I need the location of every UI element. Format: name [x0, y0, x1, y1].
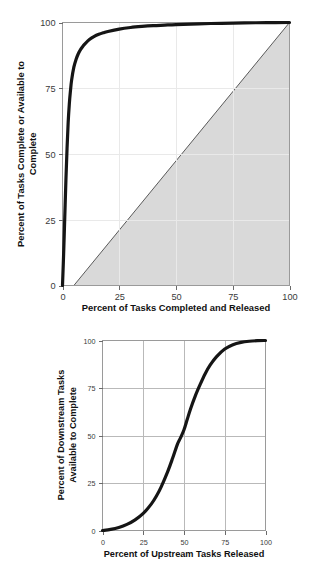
y-tick-label: 100 [40, 18, 55, 28]
x-tick-label: 100 [282, 292, 297, 302]
x-tick-label: 50 [171, 292, 181, 302]
y-tick-label: 50 [88, 432, 96, 441]
x-axis-title: Percent of Tasks Completed and Released [82, 302, 271, 313]
y-tick-label: 75 [88, 384, 96, 393]
x-tick-label: 25 [140, 538, 148, 547]
x-tick-label: 100 [260, 538, 272, 547]
y-axis-title-line1: Percent of Downstream Tasks [56, 370, 66, 501]
x-tick-label: 25 [115, 292, 125, 302]
y-tick-label: 25 [45, 216, 55, 226]
gridlines [103, 341, 266, 531]
x-tick-label: 0 [60, 292, 65, 302]
top-chart: 02550751000255075100 Percent of Tasks Co… [0, 0, 313, 320]
x-tick-label: 75 [228, 292, 238, 302]
y-axis-title-line2: Available to Complete [68, 387, 78, 483]
x-tick-label: 0 [101, 538, 105, 547]
y-tick-label: 100 [84, 337, 96, 346]
x-tick-label: 75 [221, 538, 229, 547]
x-axis-title: Percent of Upstream Tasks Released [104, 549, 265, 559]
figure-bottom: 02550751000255075100 Percent of Upstream… [0, 320, 313, 580]
figure-top: 02550751000255075100 Percent of Tasks Co… [0, 0, 313, 320]
y-tick-label: 0 [50, 281, 55, 291]
y-tick-label: 50 [45, 150, 55, 160]
x-tick-label: 50 [181, 538, 189, 547]
y-tick-label: 0 [92, 527, 96, 536]
y-axis-title-line2: Complete [27, 133, 38, 176]
y-axis-title-line1: Percent of Tasks Complete or Available t… [15, 61, 26, 247]
y-tick-label: 25 [88, 479, 96, 488]
bottom-chart: 02550751000255075100 Percent of Upstream… [0, 320, 313, 580]
y-tick-label: 75 [45, 84, 55, 94]
